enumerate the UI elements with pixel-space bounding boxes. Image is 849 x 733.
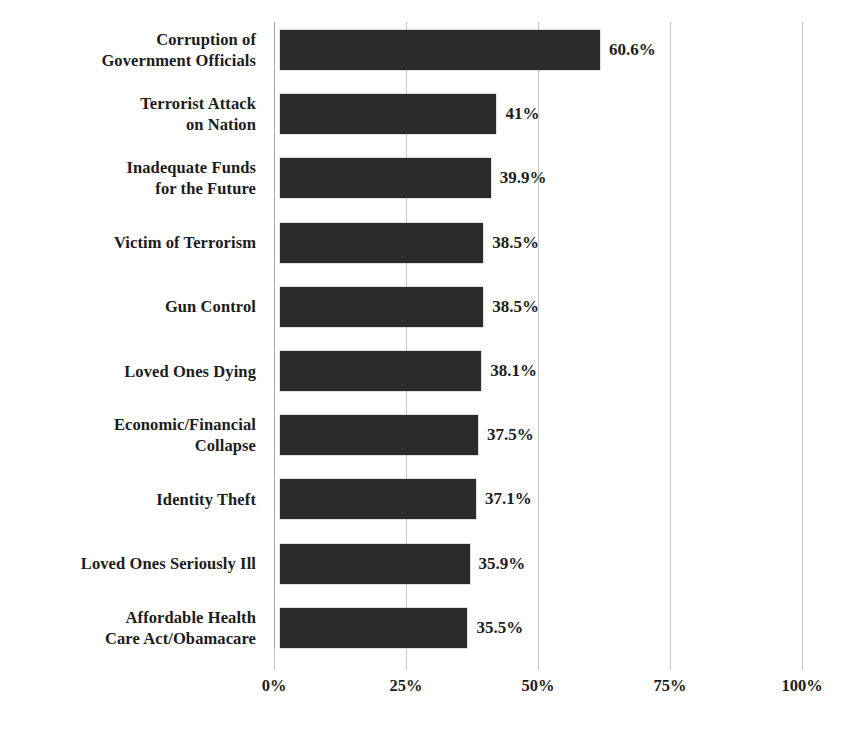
tick-mark-50 xyxy=(538,648,539,670)
category-label: Economic/FinancialCollapse xyxy=(0,414,256,456)
bar xyxy=(280,223,483,263)
horizontal-bar-chart: Corruption ofGovernment Officials60.6%Te… xyxy=(0,0,849,733)
bar xyxy=(280,351,481,391)
category-label: Loved Ones Dying xyxy=(0,361,256,382)
bar xyxy=(280,479,476,519)
bar xyxy=(280,608,467,648)
bar-row: Gun Control38.5% xyxy=(0,287,849,351)
category-label: Corruption ofGovernment Officials xyxy=(0,29,256,71)
bar-value-label: 38.5% xyxy=(492,287,539,327)
category-label: Victim of Terrorism xyxy=(0,232,256,253)
bar-value-label: 60.6% xyxy=(609,30,656,70)
category-label-line: Gun Control xyxy=(0,296,256,317)
bar-row: Identity Theft37.1% xyxy=(0,479,849,543)
category-label-line: Terrorist Attack xyxy=(0,93,256,114)
bar-row: Loved Ones Seriously Ill35.9% xyxy=(0,544,849,608)
tick-label: 100% xyxy=(781,676,822,696)
tick-mark-75 xyxy=(670,648,671,670)
tick-label: 75% xyxy=(654,676,687,696)
bar xyxy=(280,158,491,198)
category-label-line: Economic/Financial xyxy=(0,414,256,435)
bar xyxy=(280,94,496,134)
category-label: Inadequate Fundsfor the Future xyxy=(0,157,256,199)
category-label-line: Government Officials xyxy=(0,50,256,71)
bar-row: Loved Ones Dying38.1% xyxy=(0,351,849,415)
category-label: Terrorist Attackon Nation xyxy=(0,93,256,135)
plot-area: Corruption ofGovernment Officials60.6%Te… xyxy=(0,0,849,660)
bar-value-label: 37.5% xyxy=(487,415,534,455)
bar xyxy=(280,544,470,584)
category-label-line: Loved Ones Seriously Ill xyxy=(0,553,256,574)
category-label-line: Loved Ones Dying xyxy=(0,361,256,382)
category-label-line: Collapse xyxy=(0,435,256,456)
category-label-line: Corruption of xyxy=(0,29,256,50)
bar-row: Victim of Terrorism38.5% xyxy=(0,223,849,287)
category-label-line: on Nation xyxy=(0,114,256,135)
bar xyxy=(280,415,478,455)
bar-row: Economic/FinancialCollapse37.5% xyxy=(0,415,849,479)
category-label-line: Victim of Terrorism xyxy=(0,232,256,253)
bar-row: Affordable HealthCare Act/Obamacare35.5% xyxy=(0,608,849,672)
bar-row: Corruption ofGovernment Officials60.6% xyxy=(0,30,849,94)
category-label-line: Identity Theft xyxy=(0,489,256,510)
bar-value-label: 39.9% xyxy=(500,158,547,198)
tick-mark-25 xyxy=(406,648,407,670)
category-label: Affordable HealthCare Act/Obamacare xyxy=(0,607,256,649)
bar-value-label: 35.9% xyxy=(479,544,526,584)
tick-label: 0% xyxy=(262,676,287,696)
category-label-line: Affordable Health xyxy=(0,607,256,628)
category-label: Loved Ones Seriously Ill xyxy=(0,553,256,574)
tick-mark-0 xyxy=(274,648,275,670)
bar-value-label: 38.5% xyxy=(492,223,539,263)
bar-value-label: 35.5% xyxy=(476,608,523,648)
category-label-line: Inadequate Funds xyxy=(0,157,256,178)
bar-row: Inadequate Fundsfor the Future39.9% xyxy=(0,158,849,222)
category-label-line: Care Act/Obamacare xyxy=(0,628,256,649)
bar xyxy=(280,287,483,327)
bar-value-label: 41% xyxy=(505,94,539,134)
bar-row: Terrorist Attackon Nation41% xyxy=(0,94,849,158)
bar-value-label: 38.1% xyxy=(490,351,537,391)
tick-label: 50% xyxy=(522,676,555,696)
tick-label: 25% xyxy=(390,676,423,696)
bar-value-label: 37.1% xyxy=(485,479,532,519)
tick-mark-100 xyxy=(802,648,803,670)
category-label: Identity Theft xyxy=(0,489,256,510)
category-label: Gun Control xyxy=(0,296,256,317)
category-label-line: for the Future xyxy=(0,178,256,199)
bar xyxy=(280,30,600,70)
